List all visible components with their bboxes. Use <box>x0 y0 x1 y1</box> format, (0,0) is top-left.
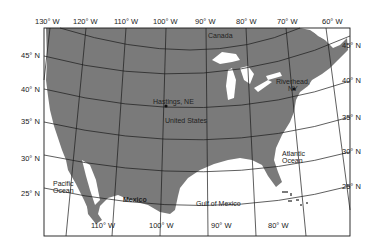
land-mass <box>46 28 348 224</box>
lat-label-left-25n: 25° N <box>21 190 40 198</box>
lat-label-left-45n: 45° N <box>21 52 40 60</box>
pacific-line2: Ocean <box>53 187 74 194</box>
label-gulf-of-mexico: Gulf of Mexico <box>196 200 241 207</box>
lat-label-right-40n: 40° N <box>342 77 361 85</box>
label-hastings-ne: Hastings, NE <box>153 98 194 105</box>
lat-label-right-45n: 45° N <box>342 42 361 50</box>
lon-label-bottom-90w: 90° W <box>211 222 232 230</box>
label-pacific-ocean: Pacific Ocean <box>53 180 74 195</box>
lon-label-bottom-80w: 80° W <box>268 222 289 230</box>
lon-label-60w: 60° W <box>322 18 343 26</box>
lon-label-bottom-110w: 110° W <box>91 222 115 230</box>
lon-label-90w: 90° W <box>195 18 216 26</box>
label-mexico: Mexico <box>123 196 147 203</box>
riverhead-line1: Riverhead, <box>276 78 310 85</box>
lat-label-left-30n: 30° N <box>21 155 40 163</box>
atlantic-line1: Atlantic <box>282 150 305 157</box>
lon-label-bottom-100w: 100° W <box>149 222 174 230</box>
label-united-states: United States <box>165 117 207 124</box>
lon-label-80w: 80° W <box>236 18 257 26</box>
lat-label-left-35n: 35° N <box>21 118 40 126</box>
label-riverhead-ny: Riverhead, NY <box>276 78 310 93</box>
label-canada: Canada <box>208 32 233 39</box>
lat-label-left-40n: 40° N <box>21 86 40 94</box>
lat-label-right-35n: 35° N <box>342 114 361 122</box>
lat-label-right-25n: 25° N <box>342 183 361 191</box>
lon-label-100w: 100° W <box>153 18 178 26</box>
caribbean-islands <box>282 191 308 206</box>
riverhead-line2: NY <box>276 85 298 92</box>
lon-label-120w: 120° W <box>73 18 98 26</box>
label-atlantic-ocean: Atlantic Ocean <box>282 150 305 165</box>
atlantic-line2: Ocean <box>282 157 303 164</box>
pacific-line1: Pacific <box>53 180 74 187</box>
lon-label-70w: 70° W <box>277 18 298 26</box>
lat-label-right-30n: 30° N <box>342 148 361 156</box>
lon-label-130w: 130° W <box>35 18 60 26</box>
lon-label-110w: 110° W <box>114 18 138 26</box>
